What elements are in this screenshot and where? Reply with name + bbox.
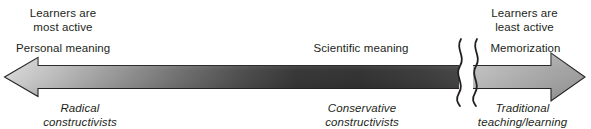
label-scientific-meaning: Scientific meaning — [290, 41, 432, 55]
label-learners-most-active: Learners are most active — [0, 6, 126, 34]
label-personal-meaning: Personal meaning — [0, 41, 178, 55]
arrow-left-shading — [5, 58, 461, 97]
arrow-right-shading — [472, 53, 585, 101]
label-radical-constructivists: Radical constructivists — [0, 101, 160, 129]
arrow-left-segment — [5, 58, 461, 97]
label-conservative-constructivists: Conservative constructivists — [292, 101, 432, 129]
label-learners-least-active: Learners are least active — [466, 6, 591, 34]
continuum-diagram: Learners are most active Personal meanin… — [0, 0, 591, 129]
label-memorization: Memorization — [466, 41, 591, 55]
arrow-right-segment — [472, 53, 585, 101]
label-traditional-teaching-learning: Traditional teaching/learning — [456, 101, 591, 129]
